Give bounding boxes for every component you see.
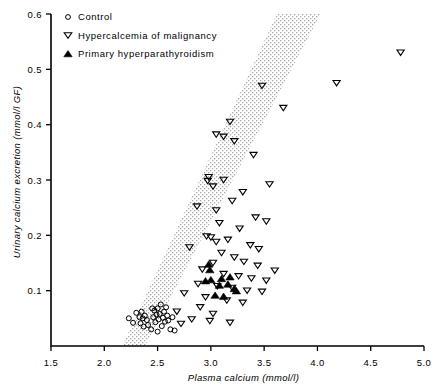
x-tick-label: 5.0 — [417, 357, 431, 368]
data-point-hypercalcemia — [240, 259, 247, 264]
data-point-hypercalcemia — [213, 132, 220, 137]
data-point-hypercalcemia — [271, 268, 278, 273]
data-point-hypercalcemia — [248, 276, 255, 281]
data-point-hypercalcemia — [258, 289, 265, 294]
data-point-control — [170, 315, 175, 320]
data-point-hypercalcemia — [224, 237, 231, 242]
data-point-control — [159, 324, 164, 329]
legend-label-0: Control — [78, 11, 112, 22]
data-point-hypercalcemia — [333, 81, 340, 86]
data-point-hypercalcemia — [173, 309, 180, 314]
data-point-hypercalcemia — [247, 243, 254, 248]
data-point-hypercalcemia — [235, 274, 242, 279]
legend: ControlHypercalcemia of malignancyPrimar… — [64, 11, 217, 59]
data-point-hypercalcemia — [239, 300, 246, 305]
data-point-hypercalcemia — [266, 182, 273, 187]
y-tick-label: 0.2 — [28, 230, 42, 241]
data-point-hypercalcemia — [216, 221, 223, 226]
data-point-hypercalcemia — [218, 250, 225, 255]
data-point-hypercalcemia — [177, 321, 184, 326]
data-point-hypercalcemia — [181, 291, 188, 296]
data-point-hypercalcemia — [188, 317, 195, 322]
axis-lines — [51, 14, 424, 346]
data-point-hypercalcemia — [206, 318, 213, 323]
data-point-hypercalcemia — [202, 295, 209, 300]
x-axis-ticks: 1.52.02.53.03.54.04.55.0 — [44, 346, 431, 368]
data-point-primary-hyperparathyroidism — [219, 293, 227, 299]
axis-frame — [51, 14, 424, 346]
scatter-plot-figure: 1.52.02.53.03.54.04.55.0 0.10.20.30.40.5… — [0, 0, 435, 390]
data-point-hypercalcemia — [263, 278, 270, 283]
data-point-hypercalcemia — [280, 105, 287, 110]
data-point-primary-hyperparathyroidism — [226, 274, 234, 280]
data-point-control — [126, 316, 131, 321]
data-point-control — [155, 329, 160, 334]
data-point-hypercalcemia — [250, 152, 257, 157]
legend-label-1: Hypercalcemia of malignancy — [78, 30, 217, 41]
x-tick-label: 4.0 — [310, 357, 324, 368]
data-point-control — [165, 313, 170, 318]
legend-marker-primary-hyperparathyroidism — [64, 51, 72, 57]
data-point-hypercalcemia — [197, 305, 204, 310]
y-axis-title: Urinary calcium excretion (mmol/l GF) — [11, 86, 22, 258]
legend-label-2: Primary hyperparathyroidism — [78, 48, 214, 59]
y-axis-ticks: 0.10.20.30.40.50.6 — [28, 9, 51, 297]
legend-marker-hypercalcemia — [64, 33, 72, 39]
y-tick-label: 0.6 — [28, 9, 42, 20]
series-primary-hyperparathyroidism-points — [201, 261, 240, 300]
x-tick-label: 1.5 — [44, 357, 58, 368]
x-tick-label: 2.5 — [150, 357, 164, 368]
y-tick-label: 0.4 — [28, 119, 42, 130]
data-point-primary-hyperparathyroidism — [211, 292, 219, 298]
data-point-hypercalcemia — [263, 219, 270, 224]
data-point-hypercalcemia — [199, 267, 206, 272]
data-point-hypercalcemia — [213, 239, 220, 244]
x-tick-label: 3.5 — [257, 357, 271, 368]
data-point-hypercalcemia — [195, 281, 202, 286]
data-point-hypercalcemia — [254, 263, 261, 268]
data-point-hypercalcemia — [397, 50, 404, 55]
x-tick-label: 3.0 — [204, 357, 218, 368]
data-point-hypercalcemia — [209, 311, 216, 316]
data-point-hypercalcemia — [239, 190, 246, 195]
y-tick-label: 0.1 — [28, 285, 42, 296]
x-axis-title: Plasma calcium (mmol/l) — [188, 372, 300, 383]
data-point-hypercalcemia — [229, 198, 236, 203]
data-point-hypercalcemia — [244, 288, 251, 293]
legend-marker-control — [66, 15, 71, 20]
data-point-hypercalcemia — [255, 247, 262, 252]
data-point-hypercalcemia — [236, 226, 243, 231]
data-point-control — [163, 319, 168, 324]
y-tick-label: 0.3 — [28, 175, 42, 186]
plot-canvas: 1.52.02.53.03.54.04.55.0 0.10.20.30.40.5… — [0, 0, 435, 390]
y-tick-label: 0.5 — [28, 64, 42, 75]
data-point-hypercalcemia — [231, 255, 238, 260]
x-tick-label: 4.5 — [364, 357, 378, 368]
data-point-hypercalcemia — [226, 320, 233, 325]
data-point-primary-hyperparathyroidism — [215, 282, 223, 288]
data-point-hypercalcemia — [252, 215, 259, 220]
x-tick-label: 2.0 — [97, 357, 111, 368]
